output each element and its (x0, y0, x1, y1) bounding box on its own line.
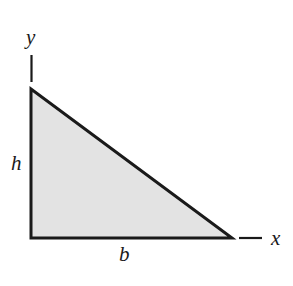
figure-container: y x h b (0, 0, 293, 286)
x-axis-label: x (271, 228, 280, 249)
y-axis-label: y (26, 27, 35, 48)
base-label: b (119, 244, 130, 265)
height-label: h (11, 153, 22, 174)
triangle-diagram-svg (0, 0, 293, 286)
triangle-shape (31, 89, 232, 238)
